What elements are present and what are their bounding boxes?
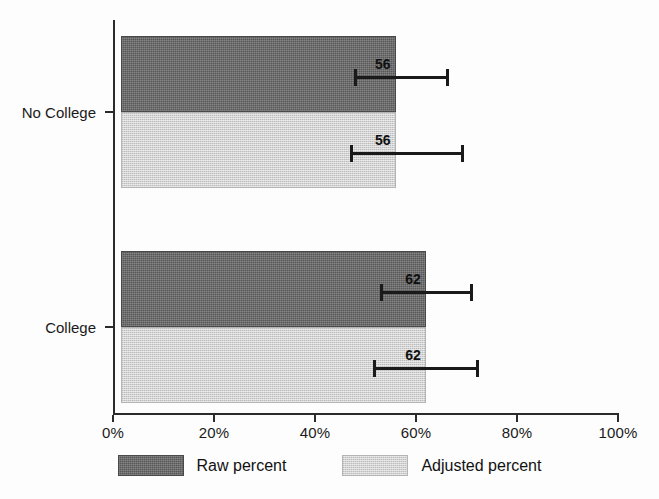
error-bar-cap-high <box>476 360 479 377</box>
x-axis-tick-label: 40% <box>300 424 331 441</box>
bar-no-college-adjusted-percent[interactable] <box>121 112 396 188</box>
chart-legend: Raw percent Adjusted percent <box>0 455 659 476</box>
y-axis-line <box>113 20 115 414</box>
error-bar-cap-low <box>354 69 357 86</box>
bar-value-label: 56 <box>375 56 391 72</box>
bar-value-label: 56 <box>375 132 391 148</box>
x-axis-tick-label: 0% <box>102 424 124 441</box>
legend-swatch-adjusted-percent <box>342 455 408 476</box>
x-axis-tick-label: 20% <box>199 424 230 441</box>
legend-item-adjusted-percent[interactable]: Adjusted percent <box>342 455 541 476</box>
x-axis-tick-label: 60% <box>401 424 432 441</box>
legend-item-raw-percent[interactable]: Raw percent <box>118 455 287 476</box>
y-axis-tick <box>105 326 114 328</box>
y-axis-tick <box>105 111 114 113</box>
error-bar-cap-low <box>380 284 383 301</box>
y-axis-tick-label: No College <box>22 104 96 121</box>
error-bar-line <box>354 76 448 79</box>
x-axis-tick <box>112 415 114 422</box>
y-axis-tick-label: College <box>45 319 96 336</box>
error-bar-line <box>350 152 463 155</box>
x-axis-line <box>113 413 619 415</box>
error-bar-cap-low <box>373 360 376 377</box>
error-bar-cap-high <box>470 284 473 301</box>
bar-value-label: 62 <box>405 347 421 363</box>
error-bar-cap-high <box>461 145 464 162</box>
error-bar-line <box>380 291 472 294</box>
error-bar-cap-high <box>446 69 449 86</box>
chart-figure: 0%20%40%60%80%100%No College5656College6… <box>0 0 659 499</box>
bar-college-adjusted-percent[interactable] <box>121 327 426 403</box>
error-bar-line <box>373 367 478 370</box>
legend-swatch-raw-percent <box>118 455 184 476</box>
x-axis-tick-label: 100% <box>598 424 637 441</box>
x-axis-tick-label: 80% <box>502 424 533 441</box>
x-axis-tick <box>516 415 518 422</box>
bar-value-label: 62 <box>405 271 421 287</box>
error-bar-cap-low <box>350 145 353 162</box>
x-axis-tick <box>617 415 619 422</box>
x-axis-tick <box>314 415 316 422</box>
legend-label-adjusted-percent: Adjusted percent <box>421 457 541 475</box>
x-axis-tick <box>415 415 417 422</box>
legend-label-raw-percent: Raw percent <box>197 457 287 475</box>
x-axis-tick <box>213 415 215 422</box>
